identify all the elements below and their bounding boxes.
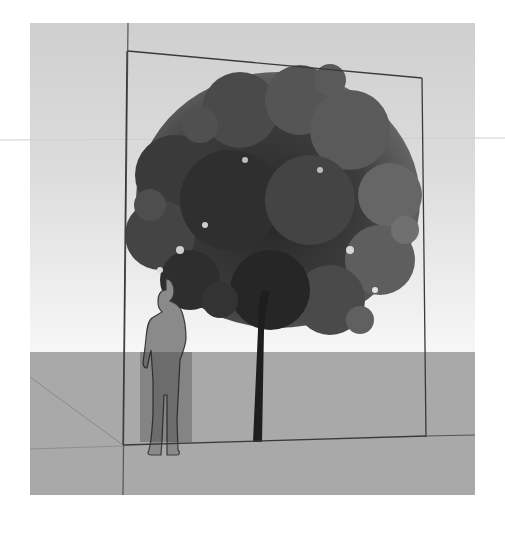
person-lower-shade <box>140 352 192 442</box>
ground-plane <box>30 352 475 495</box>
3d-viewport[interactable] <box>0 0 505 534</box>
